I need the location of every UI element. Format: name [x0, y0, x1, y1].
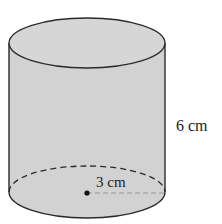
height-label: 6 cm	[176, 117, 208, 134]
cylinder-diagram: 3 cm 6 cm	[0, 0, 222, 224]
cylinder-top-face	[9, 18, 165, 68]
radius-label: 3 cm	[96, 174, 126, 190]
center-point	[84, 190, 89, 195]
cylinder-figure: 3 cm 6 cm	[0, 0, 222, 224]
